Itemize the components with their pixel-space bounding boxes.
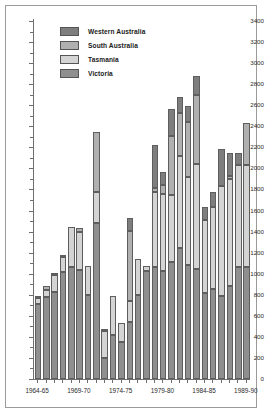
bar-segment-victoria [168,262,175,379]
bar-segment-victoria [68,267,75,379]
bar-segment-tasmania [43,290,50,297]
legend-item-western-australia: Western Australia [60,24,145,38]
bar-segment-tasmania [101,331,108,358]
bar-segment-tasmania [93,192,100,223]
bar-segment-tasmania [143,266,150,271]
bar-segment-victoria [60,272,67,379]
bar-segment-victoria [101,358,108,379]
bar-segment-tasmania [76,232,83,270]
bar-segment-tasmania [51,275,58,292]
bar-segment-western-australia [235,153,242,165]
bar-segment-south-australia [101,329,108,331]
bar-segment-western-australia [193,76,200,95]
bar-segment-victoria [152,267,159,379]
bar-segment-tasmania [235,165,242,268]
bar-column [152,21,159,379]
bar-segment-victoria [35,304,42,379]
bar-segment-south-australia [60,255,67,257]
bar-segment-tasmania [85,266,92,295]
bar-segment-tasmania [168,195,175,262]
bar-segment-western-australia [168,109,175,136]
bar-segment-south-australia [127,231,134,302]
legend-swatch-tasmania [60,55,79,64]
bar-segment-tasmania [35,298,42,304]
legend-swatch-western-australia [60,27,79,36]
bar-segment-south-australia [35,296,42,298]
bar-segment-victoria [143,271,150,379]
bar-column [168,21,175,379]
legend-item-tasmania: Tasmania [60,52,145,66]
bar-segment-victoria [85,295,92,379]
bar-column [35,21,42,379]
bar-segment-tasmania [218,186,225,296]
legend-swatch-victoria [60,69,79,78]
bar-column [235,21,242,379]
bar-segment-tasmania [243,165,250,268]
legend-label-tasmania: Tasmania [88,56,119,63]
bar-segment-south-australia [177,113,184,156]
bar-segment-victoria [51,292,58,379]
bar-segment-victoria [177,248,184,379]
bar-segment-victoria [127,322,134,379]
bar-segment-south-australia [160,185,167,193]
bar-segment-tasmania [185,177,192,265]
bar-segment-western-australia [160,172,167,185]
bar-segment-western-australia [177,97,184,113]
bar-segment-south-australia [43,286,50,289]
bar-segment-tasmania [118,323,125,342]
bar-segment-tasmania [68,227,75,267]
bar-segment-victoria [227,286,234,379]
bar-segment-south-australia [227,176,234,179]
bar-segment-victoria [218,296,225,379]
bar-column [185,21,192,379]
bar-segment-western-australia [185,106,192,122]
bar-segment-victoria [43,297,50,379]
bar-segment-victoria [135,295,142,379]
bar-segment-victoria [93,223,100,379]
bar-segment-victoria [193,269,200,379]
bar-segment-western-australia [127,218,134,231]
legend-label-south-australia: South Australia [88,42,138,49]
bar-column [193,21,200,379]
bar-segment-tasmania [177,156,184,249]
bar-segment-south-australia [243,123,250,165]
bar-column [160,21,167,379]
bar-segment-south-australia [185,122,192,177]
legend-label-western-australia: Western Australia [88,28,145,35]
bar-segment-south-australia [193,95,200,164]
bar-segment-victoria [202,293,209,379]
bar-column [202,21,209,379]
bar-segment-south-australia [51,273,58,275]
bar-column [177,21,184,379]
bar-column [43,21,50,379]
bar-segment-tasmania [160,194,167,271]
bar-segment-victoria [210,289,217,379]
bar-segment-western-australia [218,149,225,186]
bar-segment-victoria [160,271,167,379]
bar-segment-victoria [235,267,242,379]
bar-segment-tasmania [202,220,209,293]
bar-segment-victoria [110,335,117,379]
bar-segment-western-australia [202,207,209,220]
bar-segment-tasmania [127,301,134,322]
bar-segment-victoria [76,270,83,380]
bar-column [227,21,234,379]
bar-segment-tasmania [60,257,67,271]
bar-segment-victoria [185,265,192,379]
bar-segment-tasmania [152,192,159,267]
bar-segment-tasmania [135,259,142,295]
bar-column [243,21,250,379]
chart-plot-area: 0200400600800100012001400160018002000220… [0,0,264,415]
bar-segment-south-australia [76,228,83,232]
bar-segment-western-australia [210,192,217,207]
bar-segment-victoria [118,342,125,379]
bar-segment-western-australia [227,153,234,177]
legend-item-south-australia: South Australia [60,38,145,52]
legend-swatch-south-australia [60,41,79,50]
bar-segment-south-australia [93,132,100,192]
bar-segment-tasmania [110,296,117,335]
bar-column [51,21,58,379]
bar-segment-south-australia [152,188,159,192]
chart-legend: Western Australia South Australia Tasman… [60,24,145,80]
bar-column [210,21,217,379]
